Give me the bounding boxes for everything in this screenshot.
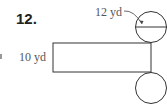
bottom-circle	[136, 73, 167, 104]
lateral-rectangle	[53, 43, 151, 72]
cylinder-net-figure	[0, 0, 167, 105]
